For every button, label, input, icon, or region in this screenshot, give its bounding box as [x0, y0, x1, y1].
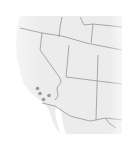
right-fade — [0, 0, 129, 144]
location-marker[interactable] — [47, 94, 51, 98]
location-marker[interactable] — [36, 87, 40, 91]
location-marker[interactable] — [42, 98, 46, 102]
western-us-map — [0, 0, 129, 144]
location-marker[interactable] — [38, 92, 42, 96]
